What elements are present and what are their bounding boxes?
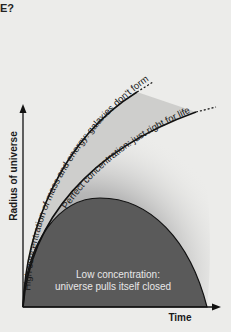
x-axis-label: Time [168, 312, 192, 323]
label-low-line1: Low concentration: [76, 269, 160, 280]
y-axis-label: Radius of universe [8, 131, 19, 221]
universe-fate-diagram: Radius of universe Time High concentrati… [0, 0, 231, 332]
x-axis-arrowhead [212, 304, 221, 311]
curve-perfect-continuation [196, 107, 216, 112]
y-axis-arrowhead [20, 104, 27, 113]
label-low-line2: universe pulls itself closed [55, 281, 171, 292]
